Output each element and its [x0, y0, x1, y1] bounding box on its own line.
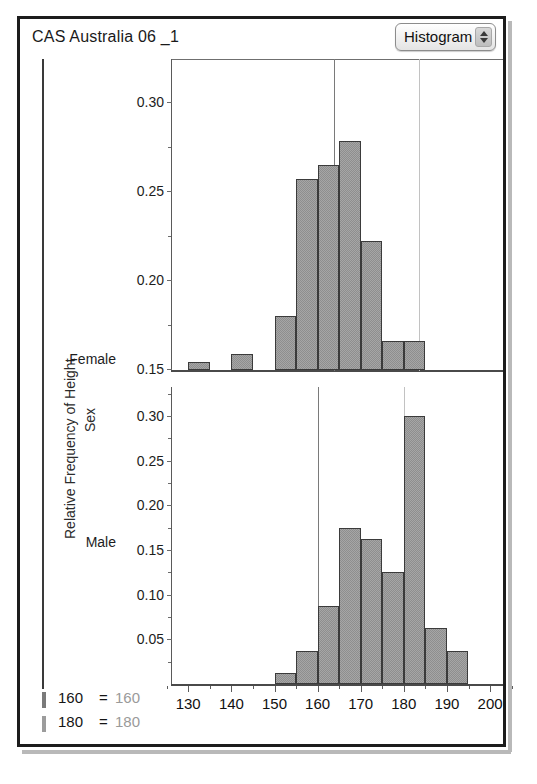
panel-female-y-axis — [171, 59, 172, 371]
x-tick-minor — [512, 686, 513, 689]
legend-key: 160 — [58, 689, 83, 706]
y-tick-label: 0.25 — [118, 183, 164, 199]
legend-equals: = — [99, 713, 108, 730]
plot-window: CAS Australia 06 _1 Histogram Relative F… — [17, 16, 506, 747]
histogram-bar-female — [188, 362, 210, 370]
y-tick-minor — [168, 528, 171, 529]
window-drop-shadow-bottom — [22, 750, 511, 754]
y-tick-label: 0.30 — [118, 408, 164, 424]
window-titlebar: CAS Australia 06 _1 Histogram — [20, 19, 503, 57]
y-tick-label: 0.05 — [118, 631, 164, 647]
y-tick-label: 0.30 — [118, 94, 164, 110]
histogram-bar-female — [231, 354, 253, 370]
legend-key: 180 — [58, 713, 83, 730]
legend-value: 160 — [115, 689, 140, 706]
plot-canvas: Relative Frequency of Height Sex 0.30 0.… — [20, 57, 503, 694]
y-tick-minor — [168, 236, 171, 237]
updown-stepper-icon[interactable] — [475, 27, 492, 47]
panel-female-baseline — [171, 370, 503, 372]
y-tick-major — [167, 505, 172, 506]
y-tick-minor — [168, 325, 171, 326]
histogram-bar-female — [382, 341, 404, 371]
legend-equals: = — [99, 689, 108, 706]
screenshot-root: CAS Australia 06 _1 Histogram Relative F… — [0, 0, 537, 784]
histogram-bar-female — [361, 241, 383, 370]
y-tick-minor — [168, 662, 171, 663]
y-tick-label: 0.20 — [118, 272, 164, 288]
legend-color-swatch — [42, 716, 46, 732]
y-tick-major — [167, 191, 172, 192]
y-tick-minor — [168, 147, 171, 148]
panel-female-top-border — [171, 59, 503, 60]
histogram-bar-male — [447, 651, 469, 685]
histogram-bar-male — [296, 651, 318, 685]
y-tick-minor — [168, 438, 171, 439]
histogram-bar-male — [404, 416, 426, 684]
histogram-bar-female — [275, 316, 297, 370]
reference-line-legend: 160 = 160 180 = 180 — [20, 688, 503, 744]
plot-type-dropdown-label: Histogram — [404, 28, 472, 45]
y-tick-minor — [168, 617, 171, 618]
histogram-bar-female — [339, 141, 361, 370]
y-tick-major — [167, 369, 172, 370]
histogram-bar-female — [318, 165, 340, 371]
y-tick-major — [167, 550, 172, 551]
y-tick-major — [167, 102, 172, 103]
y-tick-major — [167, 416, 172, 417]
panel-female: 0.30 0.25 0.20 0.15 Female — [20, 57, 509, 375]
histogram-bar-male — [318, 606, 340, 684]
panel-male-y-axis — [171, 387, 172, 685]
reference-line-180 — [419, 59, 420, 371]
histogram-bar-male — [275, 673, 297, 684]
y-tick-label: 0.15 — [118, 542, 164, 558]
y-tick-major — [167, 595, 172, 596]
y-tick-minor — [168, 394, 171, 395]
histogram-bar-male — [425, 628, 447, 684]
y-tick-minor — [168, 572, 171, 573]
panel-male-baseline — [171, 684, 503, 686]
legend-value: 180 — [115, 713, 140, 730]
y-tick-major — [167, 280, 172, 281]
y-tick-major — [167, 461, 172, 462]
panel-label-male: Male — [44, 534, 116, 550]
y-tick-minor — [168, 483, 171, 484]
histogram-bar-female — [404, 341, 426, 371]
page-title: CAS Australia 06 _1 — [32, 28, 179, 46]
histogram-bar-male — [361, 539, 383, 684]
y-tick-major — [167, 639, 172, 640]
histogram-bar-male — [382, 572, 404, 684]
panel-label-female: Female — [44, 351, 116, 367]
y-tick-label: 0.20 — [118, 497, 164, 513]
plot-type-dropdown[interactable]: Histogram — [395, 23, 496, 51]
legend-color-swatch — [42, 692, 46, 708]
histogram-bar-female — [296, 179, 318, 370]
histogram-bar-male — [339, 528, 361, 684]
y-tick-label: 0.10 — [118, 587, 164, 603]
y-tick-label: 0.25 — [118, 453, 164, 469]
